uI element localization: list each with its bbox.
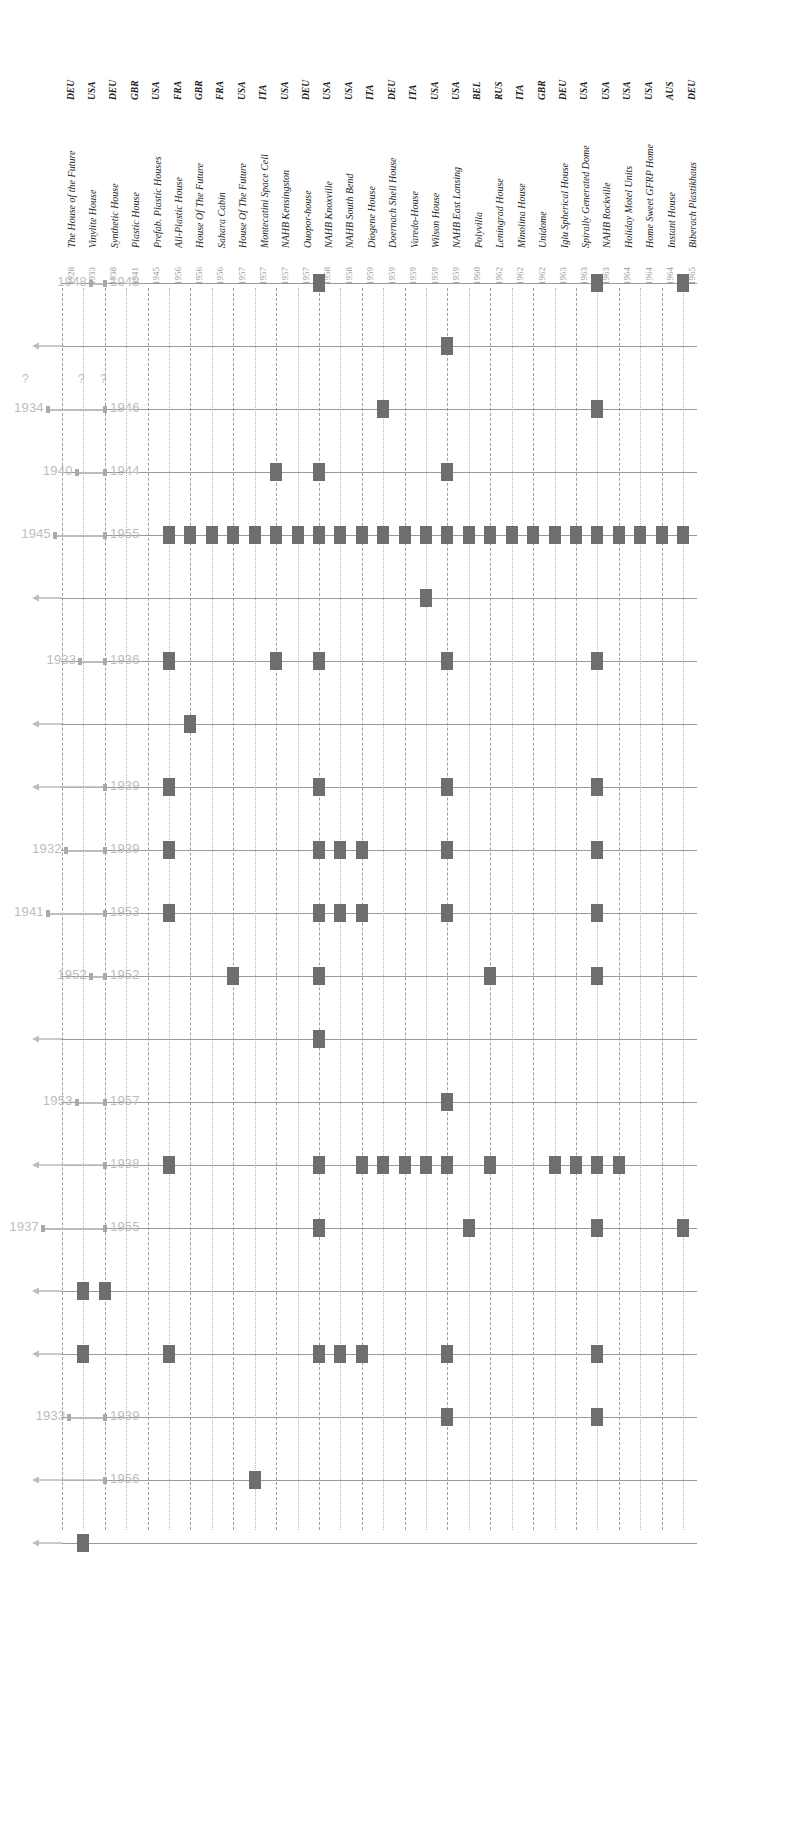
column-country-5: USA (579, 82, 589, 100)
grid-line-13 (405, 288, 406, 1530)
matrix-marker (677, 274, 689, 292)
range-bar-r10 (66, 850, 105, 852)
range-cap-end (103, 1477, 107, 1484)
column-country-9: RUS (494, 82, 504, 100)
matrix-marker (484, 1156, 496, 1174)
matrix-marker (313, 778, 325, 796)
row-baseline-r2 (61, 346, 697, 347)
range-cap-start (53, 532, 57, 539)
column-country-17: USA (322, 82, 332, 100)
range-cap-start (46, 910, 50, 917)
column-name-2: Home Sweet GFRP Home (644, 144, 655, 248)
matrix-marker (313, 526, 325, 544)
row-baseline-r21 (61, 1543, 697, 1544)
matrix-marker (270, 526, 282, 544)
range-bar-r7 (80, 661, 105, 663)
column-country-19: USA (280, 82, 290, 100)
uncertainty-marker-1: ? (78, 372, 85, 386)
row-end-year-r20: 1956 (110, 1471, 140, 1486)
range-cap-start (46, 406, 50, 413)
matrix-marker (77, 1345, 89, 1363)
matrix-marker (184, 715, 196, 733)
matrix-marker (313, 967, 325, 985)
grid-line-18 (298, 288, 299, 1530)
matrix-marker (313, 1156, 325, 1174)
matrix-marker (377, 526, 389, 544)
matrix-marker (163, 652, 175, 670)
row-start-year-r16: 1937 (0, 1219, 39, 1234)
row-start-year-r1: 1948 (39, 274, 87, 289)
range-bar-r11 (48, 913, 105, 915)
matrix-marker (463, 1219, 475, 1237)
matrix-marker (591, 1345, 603, 1363)
left-arrow-icon (32, 719, 62, 729)
row-baseline-r20 (61, 1480, 697, 1481)
matrix-marker (591, 841, 603, 859)
matrix-marker (377, 400, 389, 418)
column-name-29: The House of the Future (66, 151, 77, 248)
matrix-marker (591, 400, 603, 418)
matrix-marker (591, 274, 603, 292)
grid-line-8 (512, 288, 513, 1530)
left-arrow-icon (32, 341, 62, 351)
matrix-marker (99, 1282, 111, 1300)
row-baseline-r4 (61, 472, 697, 473)
matrix-marker (334, 841, 346, 859)
left-arrow-icon (32, 1160, 104, 1170)
grid-line-3 (619, 288, 620, 1530)
row-end-year-r15: 1938 (110, 1156, 140, 1171)
grid-line-12 (426, 288, 427, 1530)
range-cap-start (75, 469, 79, 476)
row-end-year-r4: 1944 (110, 463, 140, 478)
matrix-marker (570, 1156, 582, 1174)
matrix-marker (441, 526, 453, 544)
grid-line-7 (533, 288, 534, 1530)
range-cap-start (89, 280, 93, 287)
column-name-7: Unidome (537, 211, 548, 248)
column-name-17: NAHB Knoxville (323, 181, 334, 248)
column-country-6: DEU (558, 80, 568, 100)
column-country-15: ITA (365, 85, 375, 100)
matrix-marker (163, 1156, 175, 1174)
column-country-25: USA (151, 82, 161, 100)
column-name-20: Montecatini Space Cell (259, 154, 270, 248)
range-cap-end (103, 280, 107, 287)
column-country-22: FRA (215, 81, 225, 100)
matrix-marker (313, 1219, 325, 1237)
range-cap-end (103, 910, 107, 917)
column-name-28: Vinylite House (87, 190, 98, 248)
matrix-marker (334, 1345, 346, 1363)
row-start-year-r3: 1934 (0, 400, 44, 415)
matrix-marker (313, 904, 325, 922)
matrix-marker (484, 526, 496, 544)
range-bar-r19 (69, 1417, 105, 1419)
row-baseline-r14 (61, 1102, 697, 1103)
range-cap-start (41, 1225, 45, 1232)
column-name-8: Minolina House (516, 183, 527, 248)
matrix-marker (441, 778, 453, 796)
range-cap-start (67, 1414, 71, 1421)
matrix-marker (356, 904, 368, 922)
column-country-0: DEU (687, 80, 697, 100)
column-country-26: GBR (130, 80, 140, 100)
column-name-10: Polyvilla (473, 212, 484, 248)
column-name-15: Diogene House (366, 186, 377, 248)
column-country-8: ITA (515, 85, 525, 100)
range-cap-end (103, 1162, 107, 1169)
row-end-year-r11: 1953 (110, 904, 140, 919)
grid-line-28 (83, 288, 84, 1530)
matrix-marker (613, 526, 625, 544)
grid-line-2 (640, 288, 641, 1530)
row-start-year-r4: 1940 (25, 463, 73, 478)
left-arrow-icon (32, 1538, 62, 1548)
column-name-24: All-Plastic House (173, 177, 184, 248)
column-name-26: Plastic House (130, 192, 141, 248)
matrix-marker (356, 526, 368, 544)
matrix-marker (227, 526, 239, 544)
range-bar-r3 (48, 409, 105, 411)
matrix-marker (206, 526, 218, 544)
column-name-21: House Of The Future (237, 163, 248, 248)
row-end-year-r1: 1948 (110, 274, 140, 289)
row-start-year-r7: 1933 (28, 652, 76, 667)
row-baseline-r17 (61, 1291, 697, 1292)
